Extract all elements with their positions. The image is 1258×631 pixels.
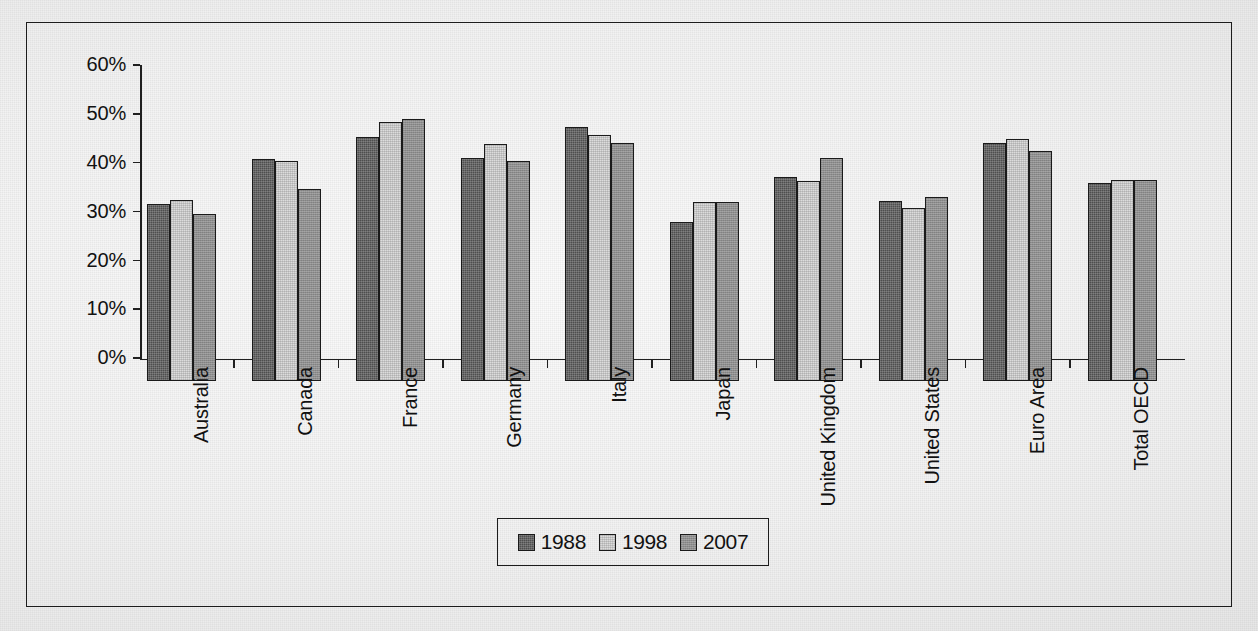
y-axis-tick: 10% bbox=[133, 308, 140, 310]
chart-figure-frame: 0%10%20%30%40%50%60% AustraliaCanadaFran… bbox=[26, 22, 1232, 607]
y-axis-tick: 20% bbox=[133, 260, 140, 262]
bar-australia-1988 bbox=[147, 204, 170, 381]
legend-entry-1988: 1988 bbox=[518, 530, 586, 554]
category-label-canada: Canada bbox=[294, 367, 317, 436]
bar-italy-2007 bbox=[611, 143, 634, 381]
x-axis-group-separator bbox=[547, 359, 549, 368]
bar-united-states-1988 bbox=[879, 201, 902, 381]
y-axis-tick-label: 0% bbox=[97, 346, 126, 369]
category-label-france: France bbox=[399, 367, 422, 428]
x-axis-group-separator bbox=[756, 359, 758, 368]
x-axis-group-separator bbox=[860, 359, 862, 368]
x-axis-group-separator bbox=[965, 359, 967, 368]
bar-italy-1988 bbox=[565, 127, 588, 381]
bar-canada-1998 bbox=[275, 161, 298, 381]
bar-japan-1988 bbox=[670, 222, 693, 381]
y-axis-tick-label: 20% bbox=[87, 249, 126, 272]
bar-group bbox=[461, 88, 530, 381]
y-axis-tick-label: 60% bbox=[87, 53, 126, 76]
bar-australia-1998 bbox=[170, 200, 193, 381]
bar-group bbox=[879, 88, 948, 381]
legend-label: 1988 bbox=[541, 530, 586, 554]
bar-group bbox=[1088, 88, 1157, 381]
bar-germany-1998 bbox=[484, 144, 507, 381]
bar-group bbox=[774, 88, 843, 381]
category-label-germany: Germany bbox=[503, 367, 526, 448]
bar-group bbox=[670, 88, 739, 381]
bar-canada-2007 bbox=[298, 189, 321, 381]
bar-australia-2007 bbox=[193, 214, 216, 381]
white-swatch bbox=[599, 534, 616, 551]
category-label-total-oecd: Total OECD bbox=[1130, 367, 1153, 471]
bar-group bbox=[565, 88, 634, 381]
bar-group bbox=[356, 88, 425, 381]
y-axis-tick: 50% bbox=[133, 113, 140, 115]
bar-united-states-1998 bbox=[902, 208, 925, 381]
bar-euro-area-2007 bbox=[1029, 151, 1052, 381]
bar-japan-2007 bbox=[716, 202, 739, 381]
plot-area: 0%10%20%30%40%50%60% AustraliaCanadaFran… bbox=[140, 65, 1185, 381]
bar-group bbox=[147, 88, 216, 381]
bar-united-kingdom-1988 bbox=[774, 177, 797, 381]
scanned-page: 0%10%20%30%40%50%60% AustraliaCanadaFran… bbox=[0, 0, 1258, 631]
category-label-united-kingdom: United Kingdom bbox=[817, 367, 840, 507]
dark-gray-swatch bbox=[518, 534, 535, 551]
y-axis-tick: 30% bbox=[133, 211, 140, 213]
y-axis-tick: 40% bbox=[133, 162, 140, 164]
bar-france-1998 bbox=[379, 122, 402, 381]
category-label-euro-area: Euro Area bbox=[1026, 367, 1049, 454]
x-axis-group-separator bbox=[338, 359, 340, 368]
chart-legend: 198819982007 bbox=[497, 518, 769, 566]
bar-total-oecd-1998 bbox=[1111, 180, 1134, 381]
y-axis-tick-label: 30% bbox=[87, 200, 126, 223]
legend-entry-2007: 2007 bbox=[680, 530, 748, 554]
bar-group bbox=[252, 88, 321, 381]
legend-label: 1998 bbox=[622, 530, 667, 554]
category-label-italy: Italy bbox=[608, 367, 631, 403]
bar-united-kingdom-2007 bbox=[820, 158, 843, 381]
bar-united-states-2007 bbox=[925, 197, 948, 381]
bar-total-oecd-2007 bbox=[1134, 180, 1157, 381]
y-axis-tick: 60% bbox=[133, 64, 140, 66]
category-label-japan: Japan bbox=[712, 367, 735, 421]
bar-euro-area-1998 bbox=[1006, 139, 1029, 381]
x-axis-group-separator bbox=[442, 359, 444, 368]
category-label-australia: Australia bbox=[190, 367, 213, 443]
category-label-united-states: United States bbox=[921, 367, 944, 484]
y-axis-tick-label: 40% bbox=[87, 151, 126, 174]
y-axis-tick-label: 10% bbox=[87, 297, 126, 320]
bar-group bbox=[983, 88, 1052, 381]
bar-united-kingdom-1998 bbox=[797, 181, 820, 381]
bar-canada-1988 bbox=[252, 159, 275, 381]
medium-gray-swatch bbox=[680, 534, 697, 551]
bar-total-oecd-1988 bbox=[1088, 183, 1111, 381]
y-axis-tick-label: 50% bbox=[87, 102, 126, 125]
bar-italy-1998 bbox=[588, 135, 611, 381]
bar-france-1988 bbox=[356, 137, 379, 381]
bar-germany-2007 bbox=[507, 161, 530, 381]
x-axis-group-separator bbox=[651, 359, 653, 368]
bar-euro-area-1988 bbox=[983, 143, 1006, 381]
x-axis-group-separator bbox=[233, 359, 235, 368]
bar-japan-1998 bbox=[693, 202, 716, 381]
bar-germany-1988 bbox=[461, 158, 484, 381]
bar-france-2007 bbox=[402, 119, 425, 381]
y-axis-line bbox=[140, 65, 142, 360]
y-axis-tick: 0% bbox=[133, 357, 140, 359]
x-axis-group-separator bbox=[1069, 359, 1071, 368]
legend-label: 2007 bbox=[703, 530, 748, 554]
legend-entry-1998: 1998 bbox=[599, 530, 667, 554]
